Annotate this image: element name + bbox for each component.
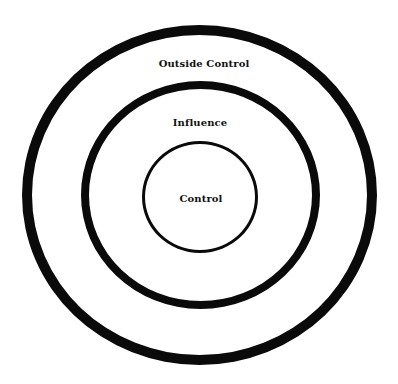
outside-control-label: Outside Control	[159, 58, 250, 69]
circles-of-control-diagram: Outside Control Influence Control	[0, 0, 398, 384]
influence-label: Influence	[173, 117, 227, 128]
control-label: Control	[180, 193, 223, 204]
